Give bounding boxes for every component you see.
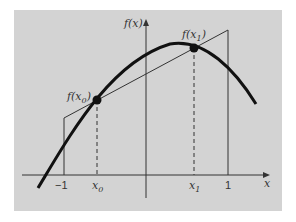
tick-1: 1 — [225, 179, 231, 191]
y-axis-label: f(x) — [123, 17, 143, 30]
point1-label: f(x1) — [181, 28, 206, 43]
point-x0 — [93, 96, 102, 105]
point0-label: f(x0) — [66, 90, 91, 105]
tick-minus-1: −1 — [55, 179, 68, 191]
point-x1 — [190, 44, 199, 53]
gauss-quadrature-diagram: f(x) x f(x0) f(x1) −1 x0 x1 1 — [0, 0, 296, 222]
x-axis-label: x — [264, 177, 271, 190]
